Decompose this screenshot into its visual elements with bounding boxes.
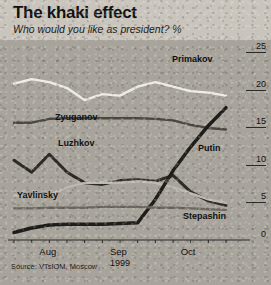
- series-label-zyuganov: Zyuganov: [55, 112, 98, 122]
- y-axis-tick-label: 25: [244, 41, 266, 51]
- y-axis-tick-label: 10: [244, 154, 266, 164]
- series-line-zyuganov: [14, 118, 226, 129]
- y-axis-tick-label: 0: [244, 229, 266, 239]
- x-axis-year-label: 1999: [110, 258, 130, 268]
- source-note: Source: VTsIOM, Moscow: [11, 262, 97, 271]
- series-label-putin: Putin: [198, 143, 221, 153]
- y-axis-tick-rule: [246, 165, 266, 166]
- chart-title: The khaki effect: [13, 3, 137, 23]
- y-axis-tick-label: 15: [244, 116, 266, 126]
- y-axis-tick-rule: [246, 90, 266, 91]
- y-axis-tick-rule: [246, 127, 266, 128]
- series-line-primakov: [14, 79, 226, 100]
- series-line-stepashin: [14, 207, 226, 210]
- series-label-primakov: Primakov: [172, 54, 213, 64]
- x-axis-tick-label: Oct: [181, 246, 196, 257]
- y-axis-tick-rule: [246, 52, 266, 53]
- series-label-stepashin: Stepashin: [183, 211, 226, 221]
- x-axis-tick-label: Aug: [39, 246, 56, 257]
- series-label-yavlinsky: Yavlinsky: [17, 190, 58, 200]
- chart-figure: The khaki effect Who would you like as p…: [0, 0, 271, 285]
- series-label-luzhkov: Luzhkov: [58, 138, 95, 148]
- y-axis-tick-label: 20: [244, 79, 266, 89]
- chart-subtitle: Who would you like as president? %: [13, 23, 182, 35]
- y-axis-tick-label: 5: [244, 191, 266, 201]
- x-axis-tick-label: Sep: [110, 246, 127, 257]
- y-axis-tick-rule: [246, 202, 266, 203]
